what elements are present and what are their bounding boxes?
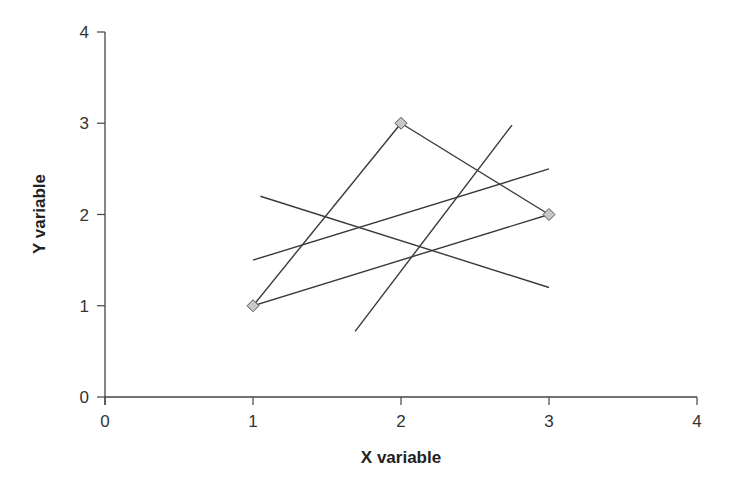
diamond-marker-icon (543, 209, 555, 221)
triangle-edge-2 (401, 123, 549, 214)
line-a (253, 169, 549, 260)
y-tick-label: 4 (80, 23, 89, 42)
x-tick-label: 3 (544, 412, 553, 431)
y-tick-label: 1 (80, 297, 89, 316)
x-tick-label: 2 (396, 412, 405, 431)
triangle-edge-3 (253, 215, 549, 306)
y-tick-label: 3 (80, 114, 89, 133)
tick-labels: 0123401234 (80, 23, 702, 431)
x-tick-label: 0 (100, 412, 109, 431)
line-c (355, 125, 512, 331)
y-tick-label: 2 (80, 206, 89, 225)
x-tick-label: 4 (692, 412, 701, 431)
line-b (260, 196, 549, 287)
y-axis-title: Y variable (30, 174, 49, 254)
chart: 0123401234 X variable Y variable (0, 0, 735, 486)
axes (97, 32, 697, 405)
y-tick-label: 0 (80, 388, 89, 407)
triangle-edge-1 (253, 123, 401, 306)
line-segments (253, 123, 549, 331)
x-axis-title: X variable (361, 448, 441, 467)
x-tick-label: 1 (248, 412, 257, 431)
